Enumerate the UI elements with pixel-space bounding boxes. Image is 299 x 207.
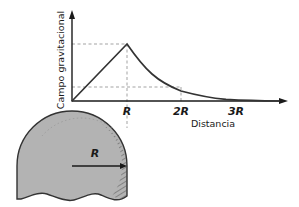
y-axis-label: Campo gravitacional — [55, 11, 66, 109]
x-tick-label-2R: 2R — [173, 105, 189, 118]
sphere-radius-label: R — [91, 147, 99, 160]
x-axis-arrow-icon — [279, 98, 288, 104]
field-curve — [72, 44, 279, 101]
figure-canvas: R R 2R 3R Distancia C — [0, 0, 299, 207]
x-tick-label-R: R — [123, 105, 131, 118]
sphere-body — [17, 111, 127, 200]
x-axis-label: Distancia — [191, 118, 235, 129]
x-tick-labels: R 2R 3R — [123, 105, 244, 118]
x-tick-label-3R: 3R — [228, 105, 244, 118]
gravitational-field-figure: R R 2R 3R Distancia C — [0, 0, 299, 207]
planet-sphere: R — [17, 111, 127, 200]
field-curve-path — [72, 44, 279, 101]
y-axis-arrow-icon — [69, 10, 75, 19]
